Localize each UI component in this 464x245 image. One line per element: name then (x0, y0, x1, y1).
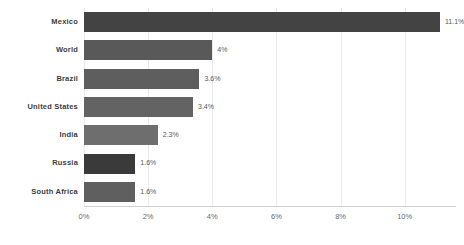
bar-row: United States3.4% (0, 93, 464, 121)
bar[interactable] (84, 12, 440, 32)
bar[interactable] (84, 69, 199, 89)
bar-value-label: 1.6% (140, 149, 156, 177)
x-tick-label: 6% (256, 210, 296, 224)
bar-row: Brazil3.6% (0, 65, 464, 93)
category-label: World (0, 36, 78, 64)
x-tick-label: 4% (192, 210, 232, 224)
bar-rows: Mexico11.1%World4%Brazil3.6%United State… (0, 8, 464, 206)
bar-value-label: 2.3% (163, 121, 179, 149)
category-label: Mexico (0, 8, 78, 36)
x-tick-label: 2% (128, 210, 168, 224)
bar-row: India2.3% (0, 121, 464, 149)
bar-row: Mexico11.1% (0, 8, 464, 36)
category-label: South Africa (0, 178, 78, 206)
bar-value-label: 11.1% (445, 8, 464, 36)
bar[interactable] (84, 154, 135, 174)
bar[interactable] (84, 125, 158, 145)
bar-row: Russia1.6% (0, 149, 464, 177)
category-label: United States (0, 93, 78, 121)
bar-chart: Mexico11.1%World4%Brazil3.6%United State… (0, 0, 464, 245)
x-tick-label: 8% (321, 210, 361, 224)
x-axis-tick-labels: 0%2%4%6%8%10% (0, 210, 464, 230)
bar-value-label: 1.6% (140, 178, 156, 206)
bar-value-label: 4% (217, 36, 227, 64)
x-axis-line (84, 206, 456, 207)
bar[interactable] (84, 40, 212, 60)
bar[interactable] (84, 97, 193, 117)
category-label: India (0, 121, 78, 149)
category-label: Brazil (0, 65, 78, 93)
bar[interactable] (84, 182, 135, 202)
bar-row: South Africa1.6% (0, 178, 464, 206)
category-label: Russia (0, 149, 78, 177)
x-tick-label: 10% (385, 210, 425, 224)
bar-row: World4% (0, 36, 464, 64)
bar-value-label: 3.6% (204, 65, 220, 93)
x-tick-label: 0% (64, 210, 104, 224)
bar-value-label: 3.4% (198, 93, 214, 121)
